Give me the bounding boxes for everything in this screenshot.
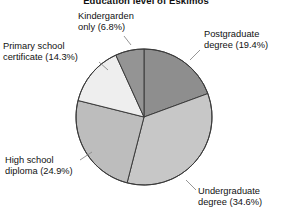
pie-label-undergraduate-degree: Undergraduate degree (34.6%): [198, 186, 262, 209]
pie-label-postgraduate-degree: Postgraduate degree (19.4%): [204, 29, 268, 52]
leader-line-kindergarden: [124, 36, 131, 45]
leader-line-postgraduate: [190, 50, 200, 60]
pie-label-line-2: degree (34.6%): [198, 197, 262, 208]
pie-label-line-1: Primary school: [3, 41, 78, 52]
pie-label-line-2: diploma (24.9%): [5, 166, 73, 177]
pie-label-line-2: only (6.8%): [78, 22, 134, 33]
pie-label-line-1: Undergraduate: [198, 186, 262, 197]
pie-label-primary-school-certificate: Primary school certificate (14.3%): [3, 41, 78, 64]
pie-label-line-2: degree (19.4%): [204, 40, 268, 51]
pie-label-high-school-diploma: High school diploma (24.9%): [5, 155, 73, 178]
pie-label-kindergarden-only: Kindergarden only (6.8%): [78, 11, 134, 34]
pie-label-line-1: Kindergarden: [78, 11, 134, 22]
pie-label-line-1: Postgraduate: [204, 29, 268, 40]
pie-label-line-1: High school: [5, 155, 73, 166]
leader-line-undergraduate: [186, 180, 196, 190]
pie-label-line-2: certificate (14.3%): [3, 52, 78, 63]
chart-canvas: Education level of Eskimos Kindergarden …: [0, 0, 292, 222]
